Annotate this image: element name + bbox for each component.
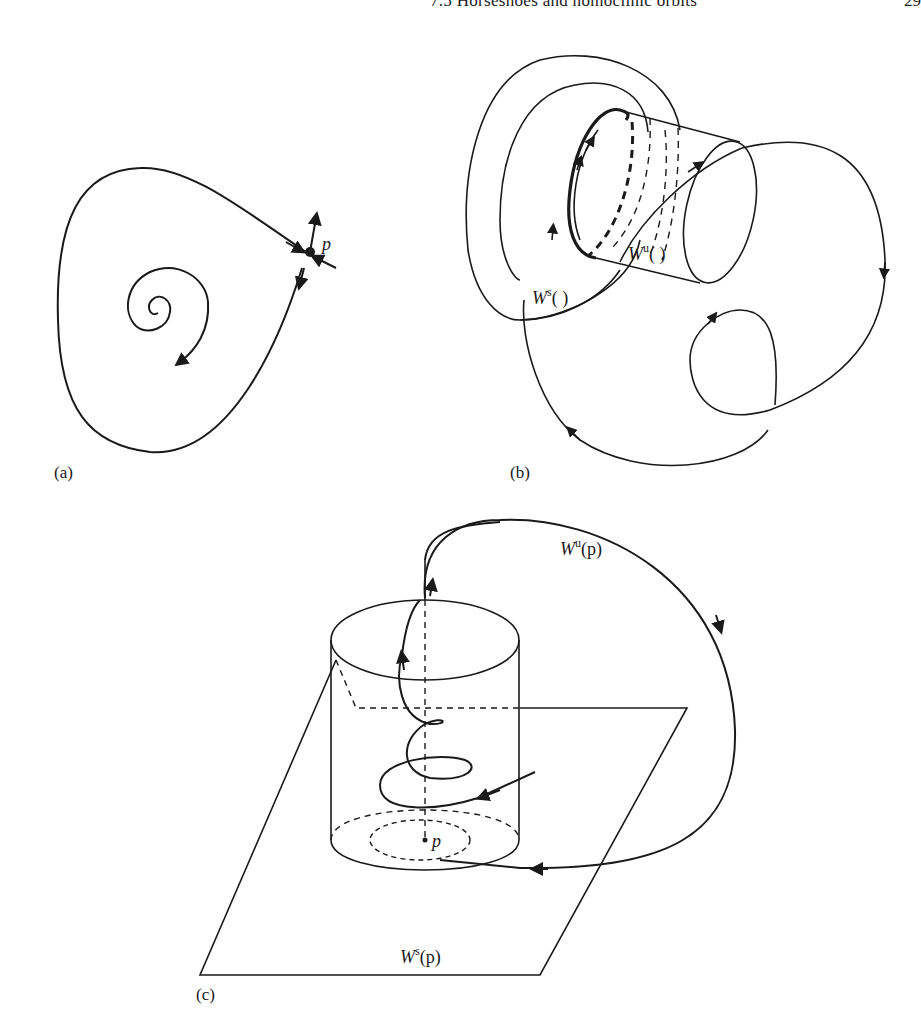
- stable-plane-front-c: [200, 660, 687, 975]
- arrow-right-down-c: [716, 615, 720, 628]
- dashed-bold-b: [588, 122, 633, 256]
- figure-canvas: p (a) Wu( ): [0, 0, 921, 1035]
- fixed-point-p-c: [423, 838, 428, 843]
- unstable-label-c: Wu(p): [560, 536, 602, 560]
- point-label-p-c: p: [430, 831, 441, 851]
- spiral-a: [128, 268, 208, 362]
- arrow-inner-left-b: [552, 228, 553, 240]
- arrow-thin-up-b: [586, 140, 592, 150]
- dashed-1-b: [610, 118, 650, 250]
- arrow-bottom-b: [570, 430, 580, 440]
- arrow-unstable-up-a: [310, 218, 316, 252]
- homoclinic-loop-a: [58, 168, 306, 452]
- dashed-3-b: [662, 128, 678, 260]
- cylinder-bottom-edge-b: [596, 258, 700, 283]
- big-loop-b: [690, 142, 885, 414]
- cylinder-top-edge-b: [626, 112, 740, 142]
- panel-label-c: (c): [196, 985, 215, 1004]
- arrow-up-c: [430, 584, 432, 596]
- unstable-label-b: Wu( ): [628, 241, 666, 265]
- panel-a: p (a): [54, 168, 336, 482]
- outer-loop-1-b: [466, 56, 680, 320]
- panel-c: p Wu(p) Ws(p) (c): [196, 520, 735, 1004]
- inner-ellipse-c: [370, 820, 470, 860]
- dashed-2-b: [650, 130, 666, 255]
- bottom-loop-b: [523, 300, 768, 465]
- point-label-p-a: p: [320, 234, 331, 254]
- stable-disc-b: [520, 240, 640, 320]
- panel-label-a: (a): [54, 463, 73, 482]
- arrow-stable-in-a: [316, 258, 336, 268]
- unstable-loop-c: [402, 522, 500, 655]
- unstable-arc-c: [425, 520, 736, 868]
- arrow-spiral-up-c: [402, 656, 404, 670]
- stable-label-c: Ws(p): [400, 944, 441, 968]
- arrow-right-down-b: [884, 262, 885, 274]
- inner-thin-curve-b: [574, 130, 598, 240]
- fixed-point-p-a: [305, 247, 315, 257]
- cylinder-end-ellipse-b: [672, 135, 768, 290]
- panel-label-b: (b): [510, 463, 530, 482]
- stable-label-b: Ws( ): [532, 285, 568, 309]
- panel-b: Wu( ) Ws( ) (b): [466, 56, 885, 482]
